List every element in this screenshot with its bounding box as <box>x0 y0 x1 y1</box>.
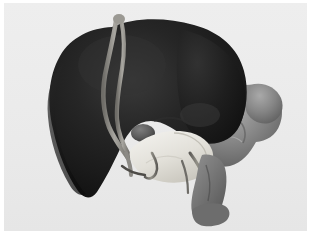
figure-root: 3D anatomical rendering of the liver and… <box>0 0 317 240</box>
ligament-superior-cap <box>113 14 125 24</box>
anatomical-render-svg <box>4 3 307 231</box>
liver-inferior-highlight <box>180 103 220 127</box>
anatomical-render-plate <box>4 3 307 231</box>
